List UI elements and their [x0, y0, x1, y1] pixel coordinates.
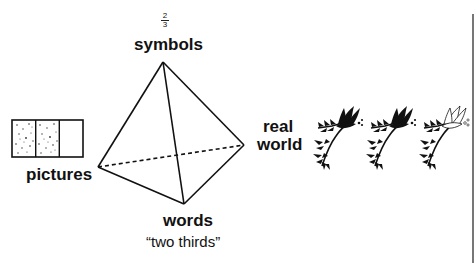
vertex-label-world: world — [257, 136, 302, 153]
hidden-edge — [98, 145, 244, 167]
vertex-label-pictures: pictures — [26, 166, 92, 183]
fraction-bar-picture — [12, 120, 83, 157]
vertex-label-symbols: symbols — [134, 36, 203, 53]
diagram-canvas — [0, 0, 474, 263]
vertex-label-words: words — [163, 212, 213, 229]
fraction-denominator: 3 — [163, 20, 167, 29]
fraction-symbol: 2 3 — [160, 12, 170, 29]
words-example: “two thirds” — [146, 234, 220, 249]
vertex-label-real: real — [263, 118, 293, 135]
flower-sprig-2 — [366, 106, 416, 170]
tetrahedron — [98, 62, 244, 204]
fraction-numerator: 2 — [163, 11, 167, 20]
flower-sprig-3 — [419, 106, 469, 170]
flower-sprig-1 — [313, 106, 363, 170]
